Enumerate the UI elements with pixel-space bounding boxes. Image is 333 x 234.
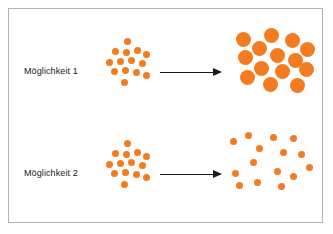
arrow-head — [213, 170, 222, 178]
particle-dot — [263, 77, 278, 92]
particle-dot — [298, 151, 305, 158]
arrow-shaft — [160, 174, 215, 175]
particle-dot — [112, 48, 119, 55]
particle-dot — [133, 69, 140, 76]
particle-dot — [280, 149, 287, 156]
particle-dot — [117, 160, 124, 167]
particle-dot — [232, 170, 239, 177]
particle-dot — [278, 183, 285, 190]
particle-dot — [256, 145, 263, 152]
particle-dot — [134, 47, 141, 54]
particle-dot — [230, 138, 237, 145]
particle-dot — [290, 135, 297, 142]
particle-dot — [270, 48, 285, 63]
arrow-shaft — [160, 72, 215, 73]
particle-dot — [128, 57, 135, 64]
particle-dot — [264, 28, 279, 43]
particle-dot — [122, 169, 129, 176]
particle-dot — [106, 59, 113, 66]
particle-dot — [275, 64, 290, 79]
particle-dot — [122, 67, 129, 74]
particle-dot — [106, 161, 113, 168]
particle-dot — [117, 58, 124, 65]
particle-dot — [128, 159, 135, 166]
diagram-row-moeglichkeit-1: Möglichkeit 1 — [0, 22, 333, 122]
particle-dot — [250, 159, 257, 166]
cluster-after-row-1 — [228, 22, 320, 122]
particle-dot — [134, 149, 141, 156]
particle-dot — [139, 162, 146, 169]
particle-dot — [139, 60, 146, 67]
diagram-canvas: Möglichkeit 1 Möglichkeit 2 — [0, 0, 333, 234]
particle-dot — [290, 78, 305, 93]
row-label-moeglichkeit-1: Möglichkeit 1 — [24, 66, 106, 77]
particle-dot — [240, 70, 255, 85]
diagram-row-moeglichkeit-2: Möglichkeit 2 — [0, 126, 333, 226]
particle-dot — [245, 132, 252, 139]
particle-dot — [143, 72, 150, 79]
particle-dot — [306, 164, 313, 171]
particle-dot — [300, 42, 315, 57]
particle-dot — [124, 38, 131, 45]
particle-dot — [121, 79, 128, 86]
cluster-before-row-2 — [98, 126, 160, 226]
particle-dot — [252, 41, 267, 56]
particle-dot — [254, 61, 269, 76]
particle-dot — [143, 51, 150, 58]
particle-dot — [270, 134, 277, 141]
particle-dot — [123, 151, 130, 158]
particle-dot — [143, 174, 150, 181]
arrow-right-icon-row-1 — [160, 68, 222, 77]
particle-dot — [143, 153, 150, 160]
particle-dot — [124, 140, 131, 147]
particle-dot — [299, 62, 314, 77]
particle-dot — [121, 181, 128, 188]
arrow-head — [213, 68, 222, 76]
particle-dot — [236, 32, 251, 47]
particle-dot — [112, 150, 119, 157]
particle-dot — [285, 33, 300, 48]
particle-dot — [123, 49, 130, 56]
particle-dot — [290, 173, 297, 180]
particle-dot — [236, 182, 243, 189]
particle-dot — [133, 171, 140, 178]
row-label-moeglichkeit-2: Möglichkeit 2 — [24, 168, 106, 179]
particle-dot — [111, 68, 118, 75]
particle-dot — [254, 179, 261, 186]
particle-dot — [238, 50, 253, 65]
cluster-after-row-2 — [228, 126, 320, 226]
particle-dot — [274, 168, 281, 175]
cluster-before-row-1 — [98, 22, 160, 122]
arrow-right-icon-row-2 — [160, 170, 222, 179]
particle-dot — [111, 170, 118, 177]
